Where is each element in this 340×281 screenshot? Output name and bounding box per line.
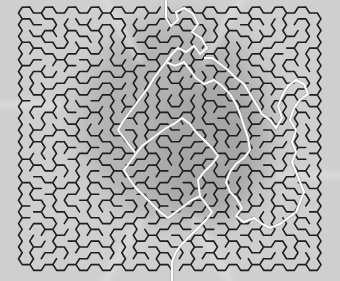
maze-canvas[interactable] [0,0,340,281]
maze-puzzle: Hexagonal maze with solution path [0,0,340,281]
